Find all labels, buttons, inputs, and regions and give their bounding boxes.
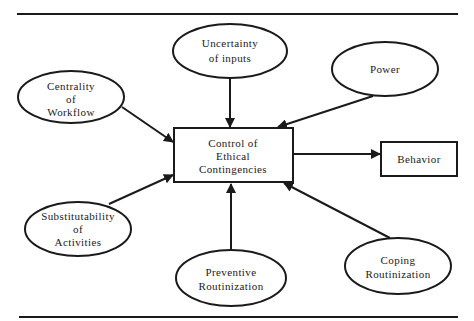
node-label-line: Ethical — [216, 150, 250, 162]
edge-substitutability-to-control — [109, 175, 173, 204]
node-label-line: Power — [370, 63, 400, 75]
node-substitutability-of-activities: Substitutability of Activities — [25, 202, 131, 256]
node-label-line: Contingencies — [199, 163, 267, 175]
edge-power-to-control — [278, 96, 373, 127]
node-label-line: of — [66, 93, 76, 105]
node-label-line: Uncertainty — [202, 37, 258, 49]
node-coping-routinization: Coping Routinization — [345, 238, 451, 294]
node-label-line: Routinization — [365, 268, 430, 280]
node-label-line: Centrality — [47, 80, 95, 92]
node-label-line: Preventive — [205, 266, 256, 278]
node-label-line: Activities — [55, 236, 102, 248]
node-label-line: Coping — [381, 254, 416, 266]
edge-coping-to-control — [284, 183, 390, 238]
node-behavior: Behavior — [381, 142, 457, 176]
node-label-line: Workflow — [47, 106, 95, 118]
diagram-canvas: Uncertainty of inputs Power Centrality o… — [0, 0, 474, 321]
node-preventive-routinization: Preventive Routinization — [176, 250, 286, 306]
node-centrality-of-workflow: Centrality of Workflow — [18, 71, 124, 123]
node-label-line: Behavior — [397, 153, 441, 165]
node-label-line: Control of — [208, 137, 258, 149]
edge-centrality-to-control — [122, 107, 173, 142]
node-power: Power — [332, 42, 438, 96]
node-label-line: Substitutability — [41, 210, 115, 222]
node-control-of-ethical-contingencies: Control of Ethical Contingencies — [174, 128, 293, 182]
node-uncertainty-of-inputs: Uncertainty of inputs — [173, 24, 287, 78]
node-label-line: of inputs — [209, 52, 251, 64]
node-label-line: Routinization — [198, 280, 263, 292]
node-label-line: of — [73, 223, 83, 235]
